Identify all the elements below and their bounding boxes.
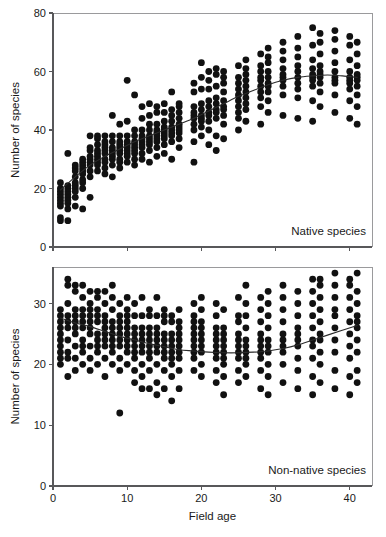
data-point bbox=[94, 349, 101, 356]
data-point bbox=[153, 391, 160, 398]
data-point bbox=[280, 318, 287, 325]
data-point bbox=[161, 385, 168, 392]
data-point bbox=[64, 276, 71, 283]
data-point bbox=[280, 349, 287, 356]
data-point bbox=[332, 324, 339, 331]
data-point bbox=[309, 65, 316, 72]
data-point bbox=[346, 355, 353, 362]
data-point bbox=[294, 324, 301, 331]
data-point bbox=[124, 306, 131, 313]
data-point bbox=[220, 355, 227, 362]
data-point bbox=[220, 112, 227, 119]
data-point bbox=[191, 337, 198, 344]
y-tick-label: 30 bbox=[34, 298, 46, 310]
data-point bbox=[176, 331, 183, 338]
data-point bbox=[168, 112, 175, 119]
data-point bbox=[235, 312, 242, 319]
data-point bbox=[198, 306, 205, 313]
non-native-species-scatter-plot: 0102030010203040Number of speciesField a… bbox=[0, 262, 386, 537]
data-point bbox=[294, 86, 301, 93]
data-point bbox=[191, 109, 198, 116]
data-point bbox=[72, 179, 79, 186]
data-point bbox=[124, 318, 131, 325]
data-point bbox=[116, 121, 123, 128]
data-point bbox=[235, 337, 242, 344]
data-point bbox=[205, 127, 212, 134]
data-point bbox=[153, 294, 160, 301]
data-point bbox=[213, 115, 220, 122]
data-point bbox=[191, 89, 198, 96]
chart-panel-non-native: 0102030010203040Number of speciesField a… bbox=[0, 262, 386, 537]
data-point bbox=[205, 97, 212, 104]
data-point bbox=[346, 276, 353, 283]
data-point bbox=[139, 349, 146, 356]
data-point bbox=[235, 343, 242, 350]
data-point bbox=[139, 373, 146, 380]
data-point bbox=[354, 318, 361, 325]
data-point bbox=[191, 349, 198, 356]
data-point bbox=[79, 361, 86, 368]
data-point bbox=[332, 337, 339, 344]
data-point bbox=[168, 138, 175, 145]
data-point bbox=[346, 42, 353, 49]
data-point bbox=[139, 361, 146, 368]
data-point bbox=[116, 300, 123, 307]
data-point bbox=[257, 68, 264, 75]
data-point bbox=[213, 300, 220, 307]
data-point bbox=[220, 74, 227, 81]
data-point bbox=[131, 324, 138, 331]
data-point bbox=[309, 300, 316, 307]
data-point bbox=[220, 89, 227, 96]
data-point bbox=[265, 373, 272, 380]
data-point bbox=[198, 343, 205, 350]
data-point bbox=[57, 349, 64, 356]
data-point bbox=[124, 118, 131, 125]
data-point bbox=[146, 385, 153, 392]
data-point bbox=[213, 343, 220, 350]
data-point bbox=[242, 71, 249, 78]
data-point bbox=[205, 68, 212, 75]
data-point bbox=[309, 24, 316, 31]
data-point bbox=[131, 156, 138, 163]
data-point bbox=[87, 343, 94, 350]
data-point bbox=[294, 355, 301, 362]
data-point bbox=[346, 97, 353, 104]
data-point bbox=[109, 112, 116, 119]
data-point bbox=[309, 276, 316, 283]
data-point bbox=[139, 343, 146, 350]
data-point bbox=[309, 343, 316, 350]
data-point bbox=[116, 156, 123, 163]
data-point bbox=[116, 343, 123, 350]
data-point bbox=[294, 300, 301, 307]
data-point bbox=[168, 318, 175, 325]
data-point bbox=[354, 270, 361, 277]
data-point bbox=[198, 331, 205, 338]
data-point bbox=[242, 94, 249, 101]
data-point bbox=[220, 121, 227, 128]
data-point bbox=[64, 373, 71, 380]
data-point bbox=[94, 294, 101, 301]
data-point bbox=[309, 312, 316, 319]
data-point bbox=[198, 294, 205, 301]
data-point bbox=[220, 80, 227, 87]
data-point bbox=[94, 343, 101, 350]
data-point bbox=[102, 337, 109, 344]
data-point bbox=[176, 144, 183, 151]
data-point bbox=[176, 135, 183, 142]
data-point bbox=[235, 367, 242, 374]
data-point bbox=[146, 324, 153, 331]
data-point bbox=[191, 80, 198, 87]
y-tick-label: 20 bbox=[34, 183, 46, 195]
data-point bbox=[146, 312, 153, 319]
data-point bbox=[161, 337, 168, 344]
data-point bbox=[102, 170, 109, 177]
data-point bbox=[131, 367, 138, 374]
data-point bbox=[235, 80, 242, 87]
data-point bbox=[168, 361, 175, 368]
data-point bbox=[176, 367, 183, 374]
data-point bbox=[213, 337, 220, 344]
data-point bbox=[139, 103, 146, 110]
data-point bbox=[124, 294, 131, 301]
data-point bbox=[309, 56, 316, 63]
data-point bbox=[116, 138, 123, 145]
